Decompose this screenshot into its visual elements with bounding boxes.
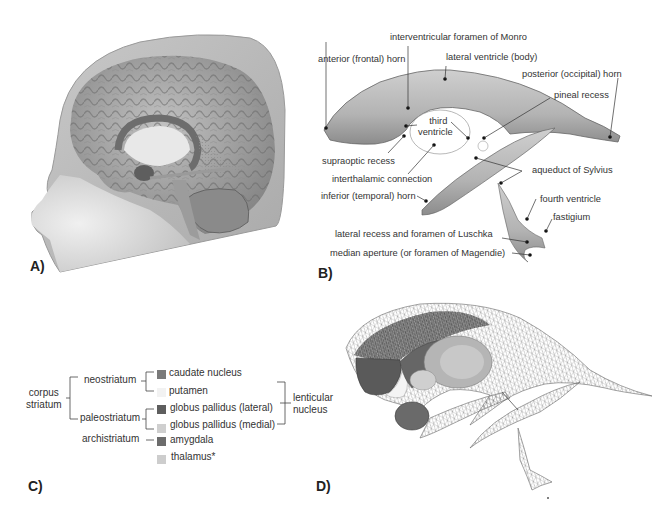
panel-label-a: A) xyxy=(30,258,45,274)
legend-globus-pallidus-lateral: globus pallidus (lateral) xyxy=(170,402,273,414)
swatch-globus-pallidus-lateral xyxy=(157,405,166,414)
head-brain-illustration xyxy=(0,0,300,300)
panel-d: D) xyxy=(320,300,672,515)
swatch-thalamus xyxy=(157,455,166,464)
label-fourth-ventricle: fourth ventricle xyxy=(540,195,601,204)
label-third: third xyxy=(429,116,447,126)
legend-amygdala: amygdala xyxy=(170,434,213,446)
label-lateral-ventricle-body: lateral ventricle (body) xyxy=(446,53,537,62)
legend-thalamus: thalamus* xyxy=(171,451,215,463)
label-archistriatum: archistriatum xyxy=(82,433,139,445)
label-anterior-horn: anterior (frontal) horn xyxy=(318,55,405,64)
globus-pallidus-medial-shape xyxy=(410,370,436,390)
label-supraoptic-recess: supraoptic recess xyxy=(322,157,395,166)
label-corpus-striatum: corpus striatum xyxy=(26,387,62,410)
label-paleostriatum: paleostriatum xyxy=(80,412,140,424)
swatch-putamen xyxy=(157,388,166,397)
label-corpus: corpus xyxy=(29,387,59,398)
legend-putamen: putamen xyxy=(169,385,208,397)
wireframe-ventricles-illustration xyxy=(320,300,672,515)
panel-label-b: B) xyxy=(318,265,333,281)
swatch-caudate-nucleus xyxy=(157,370,166,379)
panel-label-c: C) xyxy=(28,478,43,494)
label-foramen-of-magendie: median aperture (or foramen of Magendie) xyxy=(330,249,505,258)
swatch-globus-pallidus-medial xyxy=(157,424,166,433)
label-fastigium: fastigium xyxy=(553,213,590,222)
swatch-amygdala xyxy=(157,437,166,446)
legend-globus-pallidus-medial: globus pallidus (medial) xyxy=(170,419,275,431)
panel-a: A) xyxy=(0,0,300,300)
label-third-ventricle: third ventricle xyxy=(424,116,453,137)
label-neostriatum: neostriatum xyxy=(84,374,136,386)
label-interventricular-foramen: interventricular foramen of Monro xyxy=(390,33,527,42)
label-pineal-recess: pineal recess xyxy=(554,91,609,100)
label-posterior-horn: posterior (occipital) horn xyxy=(522,70,622,79)
label-ventricle: ventricle xyxy=(418,127,453,137)
label-striatum: striatum xyxy=(26,399,62,410)
panel-b: interventricular foramen of Monro anteri… xyxy=(300,0,672,300)
panel-label-d: D) xyxy=(316,478,331,494)
label-aqueduct-of-sylvius: aqueduct of Sylvius xyxy=(532,166,613,175)
panel-c: corpus striatum neostriatum paleostriatu… xyxy=(0,330,320,515)
label-foramen-of-luschka: lateral recess and foramen of Luschka xyxy=(335,230,493,239)
amygdala-shape xyxy=(395,402,429,430)
lateral-ventricle xyxy=(324,70,620,144)
wireframe-fourth-ventricle xyxy=(518,428,552,490)
label-inferior-horn: inferior (temporal) horn xyxy=(321,192,416,201)
legend-caudate-nucleus: caudate nucleus xyxy=(169,367,242,379)
label-interthalamic-connection: interthalamic connection xyxy=(332,175,432,184)
